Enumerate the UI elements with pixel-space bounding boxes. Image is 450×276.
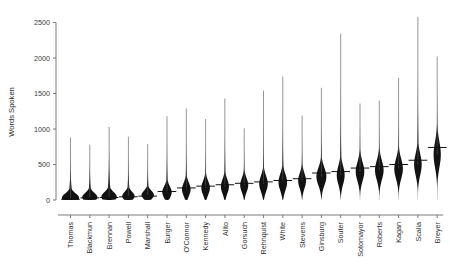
x-tick-label: Ginsburg xyxy=(317,222,326,251)
y-tick-label: 2000 xyxy=(34,54,50,63)
y-axis-label: Words Spoken xyxy=(7,87,16,137)
x-tick-label: Souter xyxy=(336,221,345,243)
x-tick-label: Alito xyxy=(221,222,230,236)
x-tick-label: Roberts xyxy=(375,222,384,248)
x-tick-label: Kennedy xyxy=(201,222,210,251)
violin-chart: 05001000150020002500 ThomasBlackmunBrenn… xyxy=(0,0,450,276)
violin-series xyxy=(61,17,446,200)
x-tick-label: Scalia xyxy=(414,222,423,242)
x-tick-label: O'Connor xyxy=(182,221,191,252)
x-tick-label: Thomas xyxy=(66,222,75,248)
x-tick-label: White xyxy=(278,222,287,240)
x-category-labels: ThomasBlackmunBrennanPowellMarshallBurge… xyxy=(66,221,442,256)
x-tick-label: Powell xyxy=(124,222,133,244)
x-tick-label: Kagan xyxy=(394,222,403,243)
y-tick-label: 2500 xyxy=(34,18,50,27)
y-tick-label: 1000 xyxy=(34,125,50,134)
x-tick-label: Marshall xyxy=(143,222,152,250)
x-tick-label: Rehnquist xyxy=(259,222,268,254)
x-tick-label: Burger xyxy=(163,221,172,243)
y-axis: 05001000150020002500 xyxy=(34,18,56,205)
x-tick-label: Breyer xyxy=(433,221,442,243)
y-tick-label: 0 xyxy=(46,196,50,205)
x-tick-label: Gorsuch xyxy=(240,222,249,249)
chart-canvas: 05001000150020002500 ThomasBlackmunBrenn… xyxy=(0,0,450,276)
y-tick-label: 500 xyxy=(38,160,50,169)
x-tick-label: Sotomayor xyxy=(356,221,365,256)
y-tick-label: 1500 xyxy=(34,89,50,98)
x-tick-label: Stevens xyxy=(298,222,307,248)
x-axis xyxy=(58,215,443,218)
x-tick-label: Blackmun xyxy=(85,222,94,254)
x-tick-label: Brennan xyxy=(105,222,114,249)
